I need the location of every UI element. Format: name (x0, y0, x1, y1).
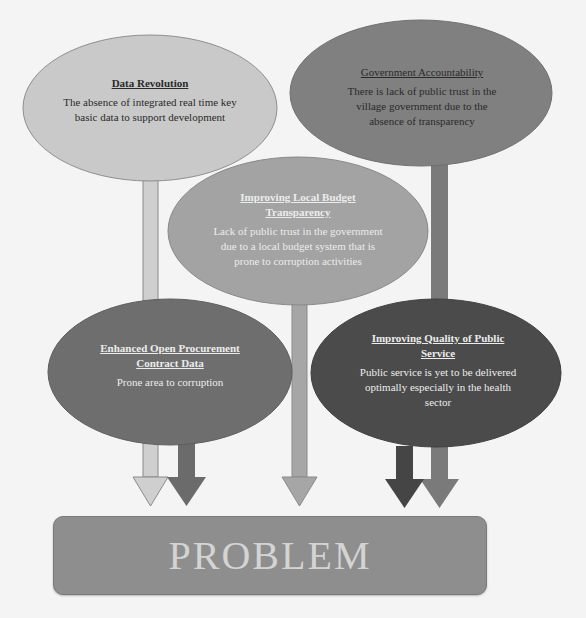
node-description: The absence of integrated real time key … (62, 95, 238, 125)
node-description: There is lack of public trust in the vil… (345, 84, 499, 129)
node-public-service-quality: Improving Quality of Public Service Publ… (358, 325, 518, 415)
node-local-budget-transparency: Improving Local Budget Transparency Lack… (210, 190, 386, 302)
problem-box: PROBLEM (53, 516, 487, 595)
node-title: Data Revolution (112, 76, 189, 91)
node-government-accountability: Government Accountability There is lack … (345, 58, 499, 136)
node-title: Improving Local Budget Transparency (210, 190, 386, 220)
node-description: Lack of public trust in the government d… (210, 224, 386, 269)
arrow-local-budget-transparency (282, 300, 317, 506)
node-description: Public service is yet to be delivered op… (358, 365, 518, 410)
problem-label: PROBLEM (169, 532, 372, 579)
node-open-procurement: Enhanced Open Procurement Contract Data … (100, 330, 240, 400)
node-title: Enhanced Open Procurement Contract Data (100, 341, 240, 371)
node-title: Improving Quality of Public Service (358, 331, 518, 361)
arrow-open-procurement (167, 440, 206, 506)
arrow-public-service-quality (385, 446, 424, 508)
node-data-revolution: Data Revolution The absence of integrate… (62, 55, 238, 145)
node-title: Government Accountability (361, 65, 484, 80)
node-description: Prone area to corruption (117, 375, 224, 390)
